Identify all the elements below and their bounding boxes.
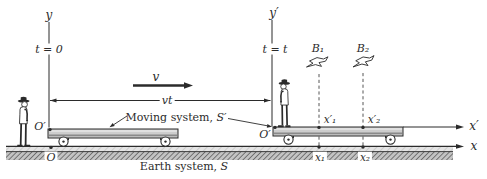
- ground-plank: [6, 147, 453, 152]
- o-earth-dot: [49, 146, 52, 149]
- bird-1-label: B₁: [312, 43, 325, 54]
- leader-left-arrowhead: [110, 123, 115, 127]
- o-prime-current-dot: [273, 126, 276, 129]
- o-prime-initial-dot: [48, 128, 51, 131]
- v-arrowhead: [184, 82, 193, 89]
- bird-2-icon: [353, 56, 375, 67]
- y-axis-label: y: [46, 9, 53, 21]
- x2-label: x₂: [358, 152, 372, 163]
- y-prime-axis-label: y′: [269, 7, 279, 19]
- x1-prime-dot: [317, 126, 320, 129]
- earth-system-symbol: S: [221, 160, 229, 173]
- x2-prime-dot: [361, 126, 364, 129]
- x-axis-arrowhead: [456, 144, 464, 149]
- velocity-label: v: [153, 71, 160, 83]
- o-prime-current-label: O′: [259, 129, 271, 140]
- t-zero-label: t = 0: [33, 44, 65, 55]
- ground-earth-hatch: [6, 152, 453, 160]
- t-current-label: t = t: [260, 44, 289, 55]
- x2-dot: [361, 145, 364, 148]
- relativity-diagram: y t = 0 y′ t = t v vt Moving system, S′ …: [0, 0, 487, 179]
- x2-prime-label: x′₂: [368, 114, 381, 125]
- observer-on-ground: [17, 97, 31, 147]
- x-prime-axis-label: x′: [469, 120, 479, 132]
- o-earth-label: O: [44, 152, 57, 163]
- x1-label: x₁: [313, 152, 327, 163]
- x-prime-axis-arrowhead: [456, 125, 464, 130]
- o-prime-initial-label: O′: [34, 121, 46, 132]
- earth-system-text: Earth system,: [140, 160, 221, 173]
- displacement-label: vt: [160, 95, 175, 106]
- x1-dot: [317, 145, 320, 148]
- velocity-arrow: [133, 82, 193, 89]
- bird-2-label: B₂: [357, 43, 370, 54]
- bird-1-icon: [307, 57, 329, 67]
- earth-system-label: Earth system, S: [140, 161, 228, 172]
- moving-cart-initial: [48, 129, 178, 146]
- vt-right-arrowhead: [264, 98, 271, 102]
- vt-left-arrowhead: [50, 98, 57, 102]
- x-axis-label: x: [471, 140, 478, 152]
- ground: [6, 144, 464, 160]
- moving-system-label: Moving system, S′: [125, 112, 226, 123]
- moving-system-symbol: S′: [217, 111, 227, 124]
- diagram-artwork: [0, 0, 487, 179]
- moving-system-text: Moving system,: [125, 111, 216, 124]
- moving-cart-current: [273, 127, 403, 144]
- observer-on-cart: [278, 79, 291, 127]
- leader-right-line: [228, 119, 268, 126]
- x1-prime-label: x′₁: [324, 114, 337, 125]
